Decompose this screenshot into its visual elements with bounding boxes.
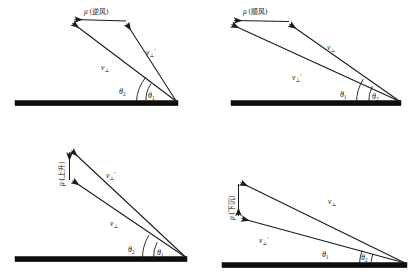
label-theta-1: θ1 — [322, 250, 329, 260]
figure-root: μ(逆风) v⊥ v⊥′ θ2 θ1 — [0, 0, 419, 280]
panel-tailwind: μ(顺风) v⊥ v⊥′ θ1 θ2 — [209, 0, 419, 140]
label-mu-upwind: μ(逆风) — [84, 7, 109, 16]
label-v-perp: v⊥ — [327, 43, 335, 53]
label-mu-ascend: μ(上升) — [57, 161, 66, 186]
panel-descend: μ(下沉) v⊥ v⊥′ θ1 θ2 — [209, 140, 419, 280]
label-mu-tailwind: μ(顺风) — [243, 7, 268, 16]
label-theta-2: θ2 — [119, 87, 126, 97]
vector-v-perp-prime — [127, 24, 177, 102]
vector-v-perp — [290, 24, 401, 102]
label-v-perp-prime: v⊥′ — [292, 72, 302, 83]
label-theta-1: θ1 — [157, 248, 164, 258]
label-mu-descend: μ(下沉) — [227, 195, 236, 220]
label-v-perp: v⊥ — [101, 63, 109, 73]
panel-upwind: μ(逆风) v⊥ v⊥′ θ2 θ1 — [0, 0, 210, 140]
label-theta-1: θ1 — [148, 91, 155, 101]
label-theta-2: θ2 — [361, 253, 368, 263]
label-v-perp: v⊥ — [110, 219, 118, 229]
label-v-perp-prime: v⊥′ — [259, 235, 269, 246]
label-theta-2: θ2 — [128, 245, 135, 255]
label-theta-2: θ2 — [372, 92, 379, 102]
label-v-perp-prime: v⊥′ — [106, 170, 116, 181]
panel-ascend: μ(上升) v⊥′ v⊥ θ2 θ1 — [0, 140, 210, 280]
vector-mu — [234, 21, 289, 22]
label-theta-1: θ1 — [340, 90, 347, 100]
vector-v-perp-prime — [232, 25, 401, 102]
ground-bar — [15, 101, 178, 106]
vector-mu — [75, 20, 127, 22]
vector-v-perp-prime — [72, 151, 187, 258]
angle-arc-theta-2 — [137, 77, 147, 103]
angle-arc-theta-2 — [142, 235, 148, 259]
vector-v-perp — [73, 23, 177, 102]
label-v-perp: v⊥ — [328, 197, 336, 207]
ground-bar — [222, 263, 407, 268]
label-v-perp-prime: v⊥′ — [146, 47, 156, 58]
